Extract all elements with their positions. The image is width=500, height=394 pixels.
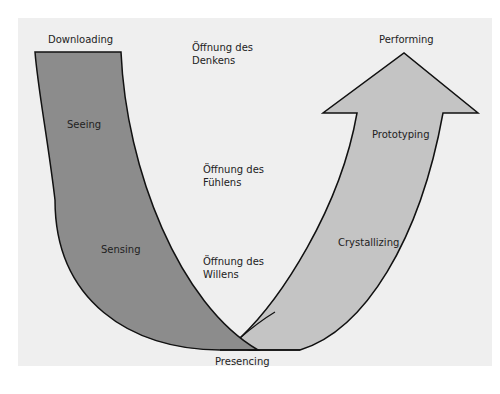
label-presencing: Presencing <box>215 355 270 368</box>
label-prototyping: Prototyping <box>372 128 430 141</box>
label-sensing: Sensing <box>101 243 141 256</box>
right-arrow-shape <box>239 53 478 350</box>
label-opening-feeling: Öffnung des Fühlens <box>203 163 264 189</box>
label-downloading: Downloading <box>48 33 113 46</box>
left-band-shape <box>35 52 258 350</box>
label-opening-will: Öffnung des Willens <box>203 255 264 281</box>
label-seeing: Seeing <box>67 118 101 131</box>
label-performing: Performing <box>379 33 434 46</box>
label-opening-thinking: Öffnung des Denkens <box>192 41 253 67</box>
label-crystallizing: Crystallizing <box>338 236 399 249</box>
